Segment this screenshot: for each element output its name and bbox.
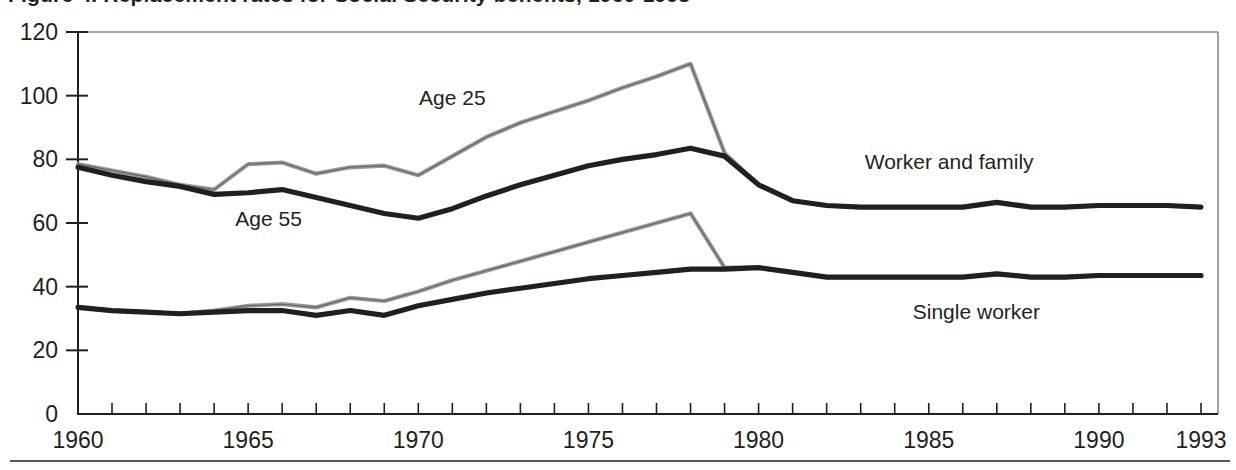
series-line-light (78, 64, 1201, 207)
y-tick-label: 100 (20, 83, 58, 109)
y-tick-label: 120 (20, 19, 58, 45)
y-tick-label: 0 (45, 401, 58, 427)
figure-container: Figure 4. Replacement rates for Social S… (0, 0, 1236, 470)
y-tick-label: 40 (32, 274, 58, 300)
x-tick-label: 1993 (1175, 427, 1226, 453)
y-tick-label: 80 (32, 146, 58, 172)
age-25-label: Age 25 (419, 86, 486, 109)
x-tick-label: 1970 (393, 427, 444, 453)
x-tick-label: 1960 (52, 427, 103, 453)
x-tick-label: 1990 (1073, 427, 1124, 453)
worker-and-family-label: Worker and family (865, 150, 1034, 173)
single-worker-label: Single worker (913, 300, 1040, 323)
line-chart: 0204060801001201960196519701975198019851… (0, 0, 1236, 470)
series-line-light-edge (78, 64, 1201, 207)
age-55-label: Age 55 (235, 207, 302, 230)
x-tick-label: 1985 (903, 427, 954, 453)
y-tick-label: 20 (32, 337, 58, 363)
x-tick-label: 1980 (733, 427, 784, 453)
x-tick-label: 1965 (223, 427, 274, 453)
y-tick-label: 60 (32, 210, 58, 236)
x-tick-label: 1975 (563, 427, 614, 453)
